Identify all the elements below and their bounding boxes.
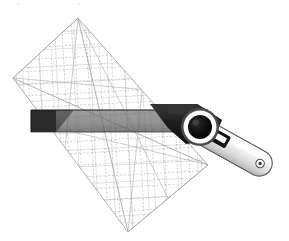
guide-bar-solid-end: [31, 110, 56, 132]
blade-hub-shine: [192, 119, 198, 125]
blade-disc: [188, 115, 212, 139]
rotary-cutter-illustration: [0, 0, 289, 241]
illustration-root: Illustration of a transparent square qui…: [0, 0, 289, 241]
cutter-blade-assembly[interactable]: [181, 108, 219, 146]
